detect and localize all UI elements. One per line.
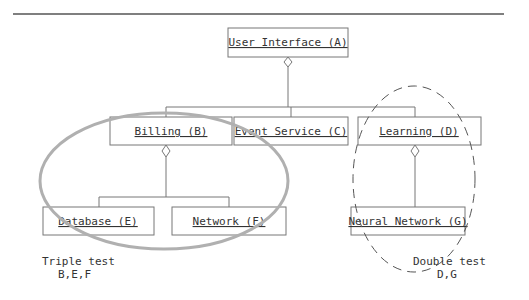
connector-a-children <box>166 57 415 117</box>
node-neural-network[interactable]: Neural Network (G) <box>348 207 467 235</box>
triple-test-members: B,E,F <box>58 268 91 281</box>
double-test-note: Double test D,G <box>413 255 486 281</box>
node-network[interactable]: Network (F) <box>172 207 286 235</box>
node-billing[interactable]: Billing (B) <box>110 117 232 145</box>
aggregation-diamond-icon <box>411 145 419 157</box>
node-label: Learning (D) <box>379 125 458 138</box>
aggregation-diamond-icon <box>284 57 292 67</box>
double-test-members: D,G <box>437 268 457 281</box>
triple-test-title: Triple test <box>42 255 115 268</box>
aggregation-diamond-icon <box>162 145 170 157</box>
node-database[interactable]: Database (E) <box>43 207 154 235</box>
node-label: User Interface (A) <box>228 36 347 49</box>
connector-b-children <box>99 145 229 207</box>
connector-d-g <box>411 145 419 207</box>
triple-test-note: Triple test B,E,F <box>42 255 115 281</box>
node-learning[interactable]: Learning (D) <box>358 117 481 145</box>
double-test-group-ellipse <box>353 86 475 272</box>
node-label: Billing (B) <box>135 125 208 138</box>
node-user-interface[interactable]: User Interface (A) <box>228 28 348 57</box>
node-label: Neural Network (G) <box>348 215 467 228</box>
double-test-title: Double test <box>413 255 486 268</box>
diagram-canvas: User Interface (A) Billing (B) Event Ser… <box>0 0 529 300</box>
